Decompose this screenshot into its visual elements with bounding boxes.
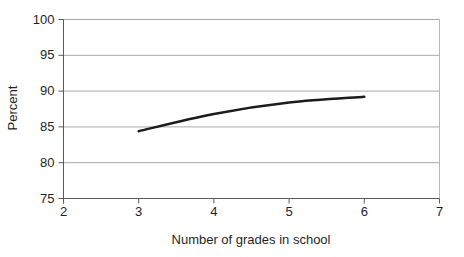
x-tick-label-4: 4 — [204, 205, 224, 219]
x-tick-label-5: 5 — [279, 205, 299, 219]
x-tick-label-2: 2 — [54, 205, 74, 219]
y-tick-label-100: 100 — [23, 13, 55, 27]
data-line-percent — [139, 97, 365, 131]
y-tick-label-95: 95 — [23, 48, 55, 62]
y-tick-label-80: 80 — [23, 156, 55, 170]
y-tick-label-85: 85 — [23, 120, 55, 134]
x-tick-label-3: 3 — [129, 205, 149, 219]
x-axis-title: Number of grades in school — [172, 233, 331, 247]
x-tick-label-6: 6 — [354, 205, 374, 219]
y-tick-label-75: 75 — [23, 192, 55, 206]
y-axis-title: Percent — [6, 86, 20, 131]
x-tick-label-7: 7 — [430, 205, 450, 219]
y-tick-label-90: 90 — [23, 84, 55, 98]
chart: Percent Number of grades in school 75808… — [0, 0, 464, 257]
